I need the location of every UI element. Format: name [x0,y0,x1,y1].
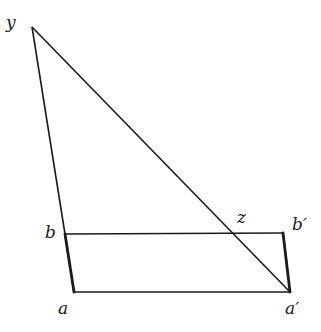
point-label-a-prime: a′ [285,300,299,317]
point-label-b: b [45,224,56,241]
segment-y-b [32,27,65,234]
segment-b-a [65,234,74,292]
geometry-diagram [0,0,321,332]
point-label-z: z [237,209,246,226]
segment-b-prime-a-prime [283,233,290,292]
point-label-a: a [58,300,68,317]
segment-y-a-prime [32,27,290,292]
point-label-b-prime: b′ [292,216,307,233]
segment-b-b-prime [65,233,283,234]
point-label-y: y [6,14,16,31]
